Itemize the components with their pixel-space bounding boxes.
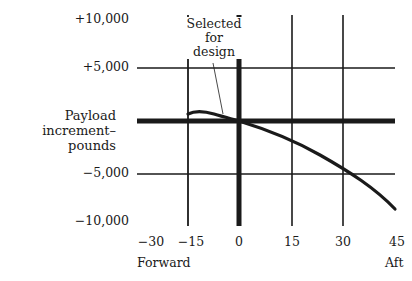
x-tick-label-15: 15 bbox=[272, 236, 312, 249]
y-axis-title-line3: pounds bbox=[16, 138, 116, 153]
x-axis-aft-label: Aft bbox=[385, 257, 403, 270]
x-tick-label-minus15: −15 bbox=[171, 236, 211, 249]
y-axis-title-line2: increment– bbox=[16, 123, 116, 138]
x-axis-forward-label: Forward bbox=[137, 257, 191, 270]
y-tick-label-minus5000: −5,000 bbox=[29, 167, 129, 180]
annotation-leader-line bbox=[213, 63, 223, 114]
y-tick-label-plus10000: +10,000 bbox=[29, 13, 129, 26]
annotation-line3: design bbox=[183, 45, 245, 59]
y-axis-title: Payload increment– pounds bbox=[16, 108, 116, 153]
x-tick-label-30: 30 bbox=[323, 236, 363, 249]
y-tick-label-minus10000: −10,000 bbox=[29, 215, 129, 228]
x-tick-label-minus30: −30 bbox=[131, 236, 171, 249]
annotation-line1: Selected bbox=[183, 17, 245, 31]
y-axis-title-line1: Payload bbox=[16, 108, 116, 123]
annotation-line2: for bbox=[183, 31, 245, 45]
x-tick-label-45: 45 bbox=[377, 236, 412, 249]
x-tick-label-0: 0 bbox=[219, 236, 259, 249]
y-tick-label-plus5000: +5,000 bbox=[29, 61, 129, 74]
selected-for-design-annotation: Selected for design bbox=[183, 17, 245, 59]
